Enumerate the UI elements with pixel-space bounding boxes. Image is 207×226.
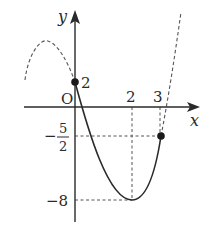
function-graph: y x O 2 2 3 − 5 2 −8 (0, 0, 207, 226)
y-label-neg-five-half-numerator: 5 (59, 121, 67, 136)
y-label-neg-8: −8 (46, 192, 68, 210)
solid-curve (75, 82, 161, 200)
y-axis-label: y (57, 7, 68, 26)
x-tick-label-2: 2 (126, 88, 136, 106)
y-label-neg-five-half-denominator: 2 (59, 139, 67, 154)
y-label-neg-five-half-sign: − (44, 127, 57, 145)
x-axis-label: x (190, 111, 199, 130)
point-0-2 (71, 78, 79, 86)
dashed-curve-right (161, 12, 181, 136)
y-label-2: 2 (81, 74, 91, 92)
point-3-neg-five-half (157, 132, 165, 140)
x-tick-label-3: 3 (153, 88, 163, 106)
dashed-curve-left (25, 41, 75, 82)
origin-label: O (61, 90, 73, 108)
